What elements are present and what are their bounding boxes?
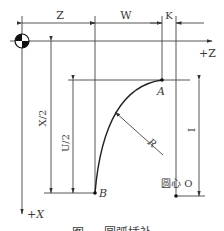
label-plus-z: +Z (199, 47, 216, 60)
label-plus-x: +X (27, 208, 45, 221)
label-u-half: U/2 (60, 134, 71, 152)
arc-interpolation-diagram: Z W K +Z X/2 U/2 I R A B 圆心 O +X 图 — 圆弧插… (0, 0, 224, 231)
label-z: Z (56, 9, 64, 22)
point-b-dot (93, 191, 97, 195)
label-x-half: X/2 (37, 110, 48, 127)
label-point-b: B (98, 187, 107, 200)
label-w: W (120, 9, 132, 22)
point-a-dot (160, 78, 164, 82)
label-i: I (186, 128, 197, 132)
label-point-a: A (156, 85, 165, 98)
label-center-o: 圆心 O (161, 178, 192, 189)
label-r: R (145, 136, 159, 150)
origin-icon (15, 34, 29, 48)
center-o-dot (174, 194, 178, 198)
radius-line (115, 112, 163, 155)
figure-caption: 图 — 圆弧插补 (72, 226, 152, 231)
label-k: K (165, 10, 173, 21)
